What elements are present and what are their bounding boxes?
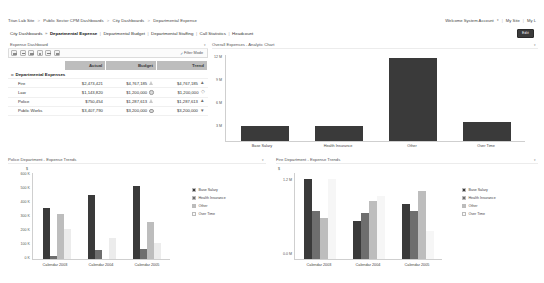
nav-root[interactable]: City Dashboards (10, 31, 42, 36)
chevron-down-icon[interactable]: ▾ (497, 18, 499, 22)
chevron-down-icon[interactable]: ▾ (534, 158, 538, 162)
group-cell: ⊟Departmental Expenses (8, 70, 208, 79)
table-group-row[interactable]: ⊟Departmental Expenses (8, 70, 208, 79)
chart-icon[interactable] (54, 50, 60, 56)
xtick-label: Base Salary (230, 144, 294, 148)
divider: | (523, 18, 524, 23)
legend-item[interactable]: Base Salary (462, 188, 496, 192)
breadcrumb-item-2[interactable]: City Dashboards (113, 18, 145, 23)
legend-item[interactable]: Other (462, 204, 496, 208)
filter-mode-label: Filter Mode (184, 51, 203, 55)
panel-header: Expense Dashboard ▾ (8, 41, 208, 49)
legend-label: Health Insurance (469, 196, 496, 200)
chevron-down-icon[interactable]: ▾ (534, 43, 538, 47)
bar-over-time[interactable] (109, 238, 116, 259)
chevron-down-icon[interactable]: ▾ (262, 158, 266, 162)
chart-title: Overall Expenses - Analytic Chart (212, 42, 274, 47)
bar-health-insurance[interactable] (361, 213, 369, 259)
bar-over-time[interactable] (64, 229, 71, 259)
undo-icon[interactable] (11, 50, 17, 56)
collapse-icon[interactable] (37, 50, 43, 56)
bar-group-2003 (43, 173, 71, 259)
legend-label: Over Time (199, 212, 216, 216)
bar-health-insurance[interactable] (50, 256, 57, 259)
legend-item[interactable]: Other (192, 204, 226, 208)
bar-over-time[interactable] (328, 179, 336, 259)
ytick-label: 200 K (8, 228, 30, 232)
breadcrumb-item-3[interactable]: Departmental Expense (153, 18, 197, 23)
nav-item-departmental-staffing[interactable]: Departmental Staffing (151, 31, 193, 36)
filter-mode-toggle[interactable]: ✓ Filter Mode (180, 51, 206, 56)
bar-health-insurance[interactable] (312, 211, 320, 259)
bar-base-salary[interactable] (241, 126, 289, 141)
legend-swatch-icon (462, 196, 466, 200)
nav-item-headcount[interactable]: Headcount (232, 31, 253, 36)
bar-other[interactable] (418, 191, 426, 259)
breadcrumb-item-0[interactable]: Titan Lab Site (8, 18, 34, 23)
welcome-label[interactable]: Welcome System Account (445, 18, 494, 23)
bar-base-salary[interactable] (88, 195, 95, 259)
legend-item[interactable]: Health Insurance (192, 196, 226, 200)
xtick-label: Calendar 2003 (33, 263, 77, 267)
chart-header: Fire Department - Expense Trends ▾ (276, 156, 538, 164)
table-row[interactable]: Law $1,143,820 $1,200,000 $1,200,000◇ (8, 88, 208, 97)
edit-icon[interactable] (45, 50, 51, 56)
row-label[interactable]: Law (8, 88, 65, 97)
y-axis-line (294, 173, 295, 259)
bar-over-time[interactable] (426, 231, 434, 259)
expand-icon[interactable] (28, 50, 34, 56)
bar-health-insurance[interactable] (315, 126, 363, 141)
bar-other[interactable] (389, 58, 437, 141)
bar-other[interactable] (320, 218, 328, 259)
bar-over-time[interactable] (463, 122, 511, 141)
table-row[interactable]: Police $750,454 $1,287,613 $1,287,613▲ (8, 97, 208, 106)
bar-over-time[interactable] (154, 243, 161, 259)
nav-item-call-statistics[interactable]: Call Statistics (200, 31, 226, 36)
column-header-budget[interactable]: Budget (106, 61, 157, 70)
my-site-link[interactable]: My Site (506, 18, 520, 23)
cell-budget: $1,287,613 (106, 97, 157, 106)
bar-base-salary[interactable] (43, 208, 50, 259)
expenses-table: Actual Budget Trend ⊟Departmental Expens… (8, 61, 208, 116)
legend-item[interactable]: Over Time (462, 212, 496, 216)
edit-button[interactable]: Edit (517, 29, 534, 38)
column-header-trend[interactable]: Trend (157, 61, 208, 70)
row-label[interactable]: Public Works (8, 106, 65, 115)
table-row[interactable]: Public Works $3,407,790 $3,200,000 $3,20… (8, 106, 208, 115)
bar-other[interactable] (57, 214, 64, 259)
y-axis-line (225, 55, 226, 141)
my-links-link[interactable]: My L (527, 18, 536, 23)
column-header-actual[interactable]: Actual (65, 61, 106, 70)
bar-base-salary[interactable] (402, 204, 410, 259)
nav-divider: | (147, 31, 148, 36)
chevron-down-icon[interactable]: ▾ (204, 43, 208, 47)
bar-other[interactable] (147, 222, 154, 259)
legend-swatch-icon (462, 188, 466, 192)
legend-item[interactable]: Health Insurance (462, 196, 496, 200)
row-label[interactable]: Police (8, 97, 65, 106)
legend-item[interactable]: Base Salary (192, 188, 226, 192)
chart-title: Police Department - Expense Trends (8, 157, 76, 162)
bar-health-insurance[interactable] (140, 249, 147, 259)
breadcrumb-item-1[interactable]: Public Sector CPM Dashboards (43, 18, 103, 23)
expand-toggle-icon[interactable]: ⊟ (11, 73, 14, 77)
y-axis-unit: $ (26, 167, 28, 171)
bar-health-insurance[interactable] (410, 211, 418, 259)
bar-health-insurance[interactable] (95, 250, 102, 259)
expense-dashboard-panel: Expense Dashboard ▾ ✓ Filter Mode Actual… (8, 41, 208, 116)
neutral-status-icon (149, 90, 153, 94)
bar-over-time[interactable] (377, 196, 385, 259)
bar-base-salary[interactable] (133, 186, 140, 259)
trend-value: $3,200,000 (177, 108, 198, 113)
nav-item-departmental-expense[interactable]: Departmental Expense (50, 31, 97, 36)
redo-icon[interactable] (20, 50, 26, 56)
legend-swatch-icon (192, 204, 196, 208)
bar-base-salary[interactable] (353, 221, 361, 259)
legend-item[interactable]: Over Time (192, 212, 226, 216)
bar-other[interactable] (369, 201, 377, 259)
table-row[interactable]: Fire $2,473,421 $4,767,185 $4,767,185▲ (8, 79, 208, 88)
cell-budget: $3,200,000 (106, 106, 157, 115)
nav-item-departmental-budget[interactable]: Departmental Budget (103, 31, 145, 36)
row-label[interactable]: Fire (8, 79, 65, 88)
bar-base-salary[interactable] (304, 179, 312, 259)
